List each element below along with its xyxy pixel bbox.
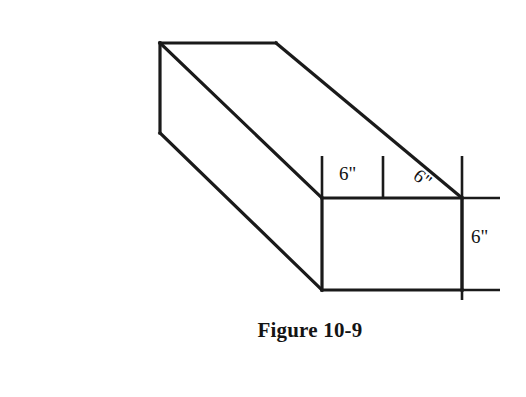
figure-container: 6" 6" 6" Figure 10-9 bbox=[0, 0, 526, 397]
dimension-label-right-side: 6" bbox=[471, 226, 488, 247]
technical-drawing: 6" 6" 6" Figure 10-9 bbox=[0, 0, 526, 397]
edge-top-receding-left bbox=[160, 43, 322, 198]
dimension-label-top-left: 6" bbox=[339, 163, 356, 184]
dimension-label-top-right: 6" bbox=[410, 165, 437, 192]
edge-bottom-receding-left bbox=[160, 133, 322, 290]
figure-caption: Figure 10-9 bbox=[257, 318, 362, 342]
